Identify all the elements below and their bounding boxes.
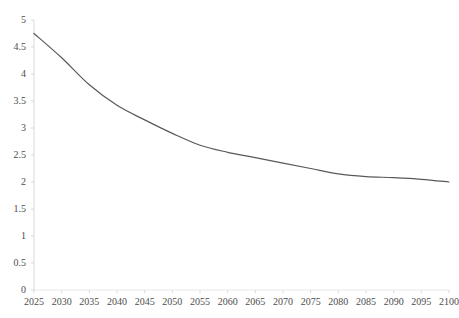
x-axis-tick-label: 2075 [301,297,321,307]
x-axis-tick-label: 2100 [439,297,459,307]
x-axis-tick-label: 2060 [218,297,238,307]
x-axis-tick-label: 2095 [411,297,431,307]
y-axis-tick-label: 2.5 [0,150,26,160]
y-axis-tick-label: 1.5 [0,204,26,214]
x-axis-tick-label: 2055 [190,297,210,307]
y-axis-tick-label: 0 [0,285,26,295]
x-axis-tick-label: 2090 [384,297,404,307]
y-axis-tick-label: 4 [0,69,26,79]
x-axis-tick-label: 2080 [328,297,348,307]
x-axis-tick-label: 2065 [245,297,265,307]
y-axis-tick-label: 3 [0,123,26,133]
x-axis-tick-label: 2040 [107,297,127,307]
x-axis-tick-label: 2050 [162,297,182,307]
x-axis-tick-label: 2085 [356,297,376,307]
data-series-group [34,34,449,183]
x-axis-tick-label: 2070 [273,297,293,307]
y-axis-tick-label: 1 [0,231,26,241]
x-axis-tick-label: 2045 [135,297,155,307]
x-axis-tick-label: 2030 [52,297,72,307]
x-axis-tick-label: 2025 [24,297,44,307]
y-axis-tick-label: 0.5 [0,258,26,268]
y-axis-tick-label: 5 [0,15,26,25]
y-axis-tick-label: 2 [0,177,26,187]
x-axis-tick-label: 2035 [79,297,99,307]
y-axis-tick-label: 3.5 [0,96,26,106]
y-axis-tick-label: 4.5 [0,42,26,52]
data-line-series [34,34,449,183]
